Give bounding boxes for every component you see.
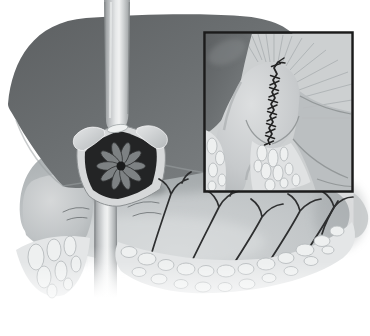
- figure: [0, 0, 370, 336]
- inset-panel: [204, 33, 352, 192]
- esophagus-highlight: [110, 2, 111, 118]
- bottom-fade: [0, 262, 370, 336]
- rosette-center: [117, 162, 126, 171]
- esophagus: [104, 0, 130, 134]
- surgical-illustration: [0, 0, 370, 336]
- esophagus-tube: [104, 0, 130, 132]
